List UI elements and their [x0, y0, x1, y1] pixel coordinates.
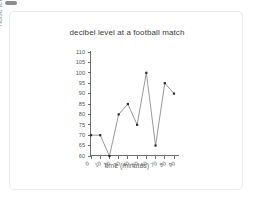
y-tick-label: 60 — [63, 153, 85, 159]
y-tick-label: 105 — [63, 59, 85, 65]
data-point — [145, 72, 147, 74]
data-point — [108, 155, 110, 157]
data-point — [164, 82, 166, 84]
y-tick-label: 85 — [63, 101, 85, 107]
y-tick-label: 90 — [63, 90, 85, 96]
data-point — [127, 103, 129, 105]
data-point — [173, 93, 175, 95]
y-tick-label: 100 — [63, 70, 85, 76]
tick-marks — [88, 52, 175, 159]
x-axis-title: time (minutes) — [10, 162, 244, 169]
data-point — [154, 145, 156, 147]
data-point — [118, 113, 120, 115]
y-axis-title: noise level (decibels) — [0, 0, 3, 26]
plot-area: 6065707580859095100105110 01020304050607… — [90, 51, 179, 156]
y-tick-label: 75 — [63, 122, 85, 128]
data-point — [90, 134, 92, 136]
data-point — [99, 134, 101, 136]
data-series-line — [91, 73, 174, 156]
y-tick-label: 110 — [63, 49, 85, 55]
chart-canvas — [90, 51, 179, 156]
y-tick-label: 95 — [63, 80, 85, 86]
chart-card: decibel level at a football match noise … — [9, 11, 243, 190]
y-tick-label: 70 — [63, 132, 85, 138]
data-point — [136, 124, 138, 126]
top-left-chip — [5, 1, 17, 5]
chart-title: decibel level at a football match — [10, 28, 244, 37]
y-tick-label: 80 — [63, 111, 85, 117]
y-tick-label: 65 — [63, 142, 85, 148]
